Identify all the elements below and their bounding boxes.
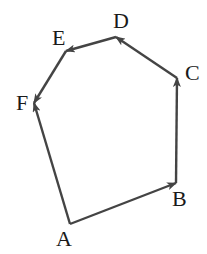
- vertex-label-a: A: [56, 226, 72, 251]
- vector-a-f: [34, 103, 70, 224]
- vertex-label-d: D: [113, 8, 129, 33]
- labels-group: ABCDEF: [16, 8, 200, 251]
- vertex-label-f: F: [16, 90, 28, 115]
- vector-polygon-diagram: ABCDEF: [0, 0, 207, 254]
- vertex-label-b: B: [172, 186, 187, 211]
- vector-d-e: [66, 37, 116, 51]
- vertex-label-e: E: [52, 25, 65, 50]
- vertex-label-c: C: [185, 60, 200, 85]
- vector-e-f: [34, 51, 66, 103]
- vector-c-d: [116, 37, 177, 78]
- vector-b-c: [176, 78, 177, 183]
- vector-a-b: [70, 183, 176, 224]
- edges-group: [34, 37, 177, 224]
